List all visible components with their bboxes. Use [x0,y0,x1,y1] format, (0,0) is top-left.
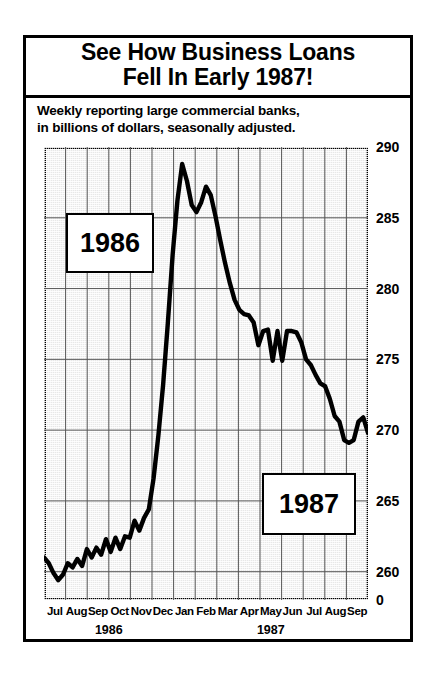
y-axis-tick: 265 [376,493,399,509]
x-axis-tick: Jan [175,605,194,617]
subtitle-block: Weekly reporting large commercial banks,… [37,103,357,136]
x-axis-tick: Sep [88,605,108,617]
y-axis-tick: 290 [376,139,399,155]
x-axis-tick: Jul [47,605,63,617]
x-axis-tick: Aug [66,605,87,617]
x-axis-year-labels: 19861987 [44,623,368,641]
subtitle-line-1: Weekly reporting large commercial banks, [37,103,357,120]
x-axis-tick: Aug [325,605,346,617]
title-line-2: Fell In Early 1987! [123,65,314,90]
x-axis-labels: JulAugSepOctNovDecJanFebMarAprMayJunJulA… [44,605,368,623]
x-axis-tick: Jun [283,605,303,617]
x-axis-tick: Sep [347,605,367,617]
x-axis-tick: Dec [153,605,173,617]
x-axis-year-label: 1986 [95,623,123,637]
subtitle-line-2: in billions of dollars, seasonally adjus… [37,120,357,137]
chart-poster: See How Business Loans Fell In Early 198… [0,0,436,675]
y-axis-tick: 280 [376,281,399,297]
x-axis-tick: Feb [196,605,216,617]
y-axis-tick: 285 [376,210,399,226]
x-axis-tick: Mar [218,605,238,617]
x-axis-tick: Jul [306,605,322,617]
y-axis-tick: 260 [376,564,399,580]
y-axis-labels: 2902852802752702652600 [376,147,428,600]
x-axis-tick: Oct [110,605,128,617]
y-axis-tick: 270 [376,422,399,438]
x-axis-tick: Apr [240,605,259,617]
y-axis-tick: 0 [376,592,384,608]
title-block: See How Business Loans Fell In Early 198… [23,35,413,98]
x-axis-tick: May [260,605,281,617]
x-axis-tick: Nov [131,605,152,617]
callout-1986: 1986 [66,213,154,273]
y-axis-tick: 275 [376,351,399,367]
x-axis-year-label: 1987 [257,623,285,637]
title-line-1: See How Business Loans [81,40,355,65]
callout-1987: 1987 [262,473,356,535]
